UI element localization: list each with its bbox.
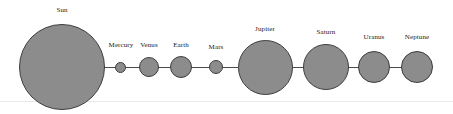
venus-disc [139,57,159,77]
sun-disc [19,24,105,110]
saturn-disc [303,44,349,90]
jupiter-label: Jupiter [255,25,275,33]
uranus-label: Uranus [364,33,385,41]
uranus-disc [358,51,390,83]
solar-system-diagram: SunMercuryVenusEarthMarsJupiterSaturnUra… [0,0,453,114]
earth-disc [170,56,192,78]
mars-label: Mars [209,43,224,51]
connector-line-earth-mars [191,67,210,68]
mars-disc [209,60,223,74]
earth-label: Earth [173,41,189,49]
neptune-disc [401,51,433,83]
neptune-label: Neptune [405,33,429,41]
connector-line-mars-jupiter [222,67,238,68]
connector-line-mercury-venus [125,67,140,68]
mercury-label: Mercury [109,41,134,49]
mercury-disc [115,62,126,73]
venus-label: Venus [140,41,158,49]
jupiter-disc [238,40,293,95]
sun-label: Sun [56,6,67,14]
saturn-label: Saturn [317,28,336,36]
